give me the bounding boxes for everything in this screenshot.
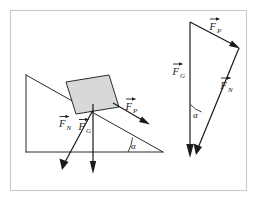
triangle-force-gravity-subscript: G — [180, 72, 185, 80]
incline-force-normal-symbol: F — [58, 118, 66, 129]
incline-angle-label: α — [131, 141, 136, 151]
triangle-angle-label: α — [193, 110, 198, 120]
triangle-force-parallel-symbol: F — [209, 21, 217, 32]
incline-force-parallel-subscript: P — [132, 107, 138, 115]
figure-root: α F N F — [0, 0, 257, 201]
triangle-force-normal-subscript: N — [227, 86, 233, 94]
incline-force-gravity-subscript: G — [86, 127, 91, 135]
incline-force-normal-subscript: N — [66, 124, 72, 132]
force-diagram-svg: α F N F — [0, 0, 257, 201]
incline-force-gravity-symbol: F — [78, 121, 86, 132]
triangle-force-parallel-subscript: P — [216, 27, 222, 35]
triangle-force-normal-symbol: F — [220, 80, 228, 91]
triangle-force-gravity-symbol: F — [172, 66, 180, 77]
incline-force-parallel-symbol: F — [125, 101, 133, 112]
